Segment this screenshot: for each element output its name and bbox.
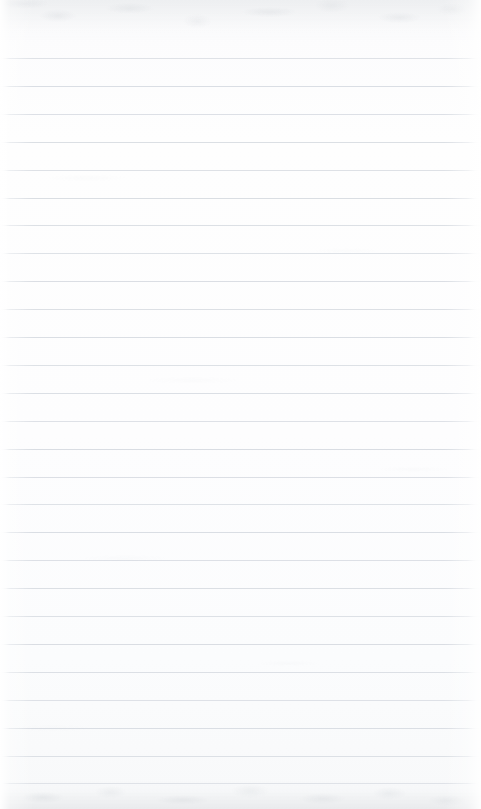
page-content-text[interactable]: [0, 58, 481, 784]
notebook-page: [0, 0, 481, 809]
